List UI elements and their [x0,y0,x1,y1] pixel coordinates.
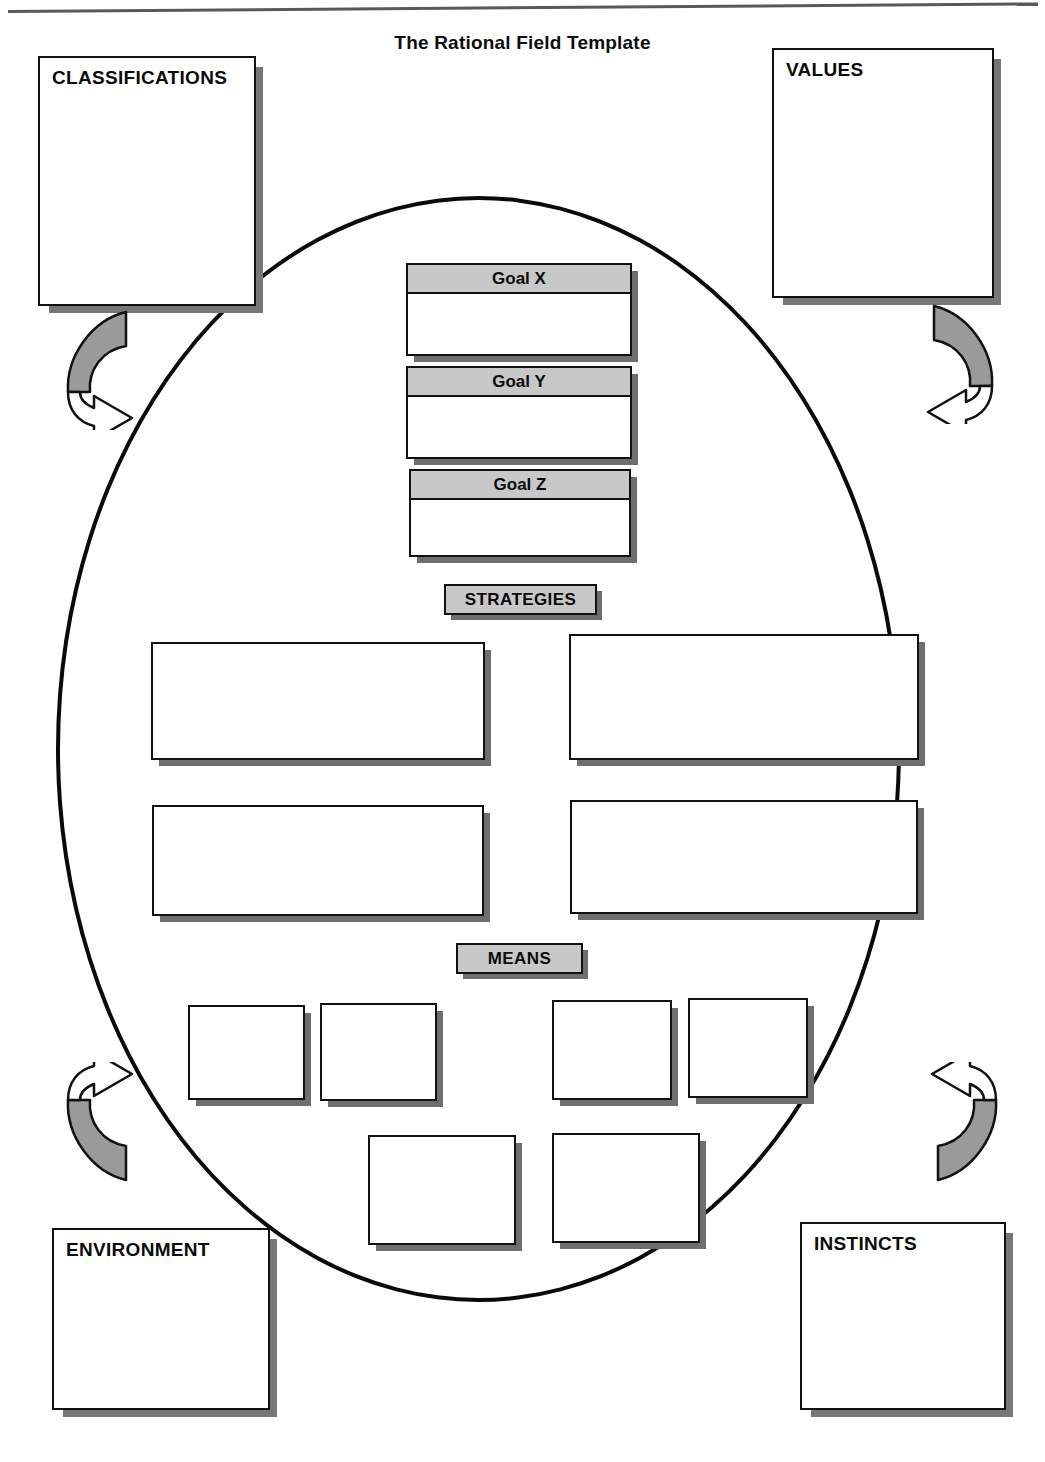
goal-card-z[interactable]: Goal Z [409,469,631,557]
means-box-3[interactable] [552,1000,672,1100]
corner-box-values-label: VALUES [786,59,863,81]
means-box-1[interactable] [188,1005,305,1100]
means-box-4[interactable] [688,998,808,1098]
environment-inflow-arrow [58,1062,168,1192]
means-box-2[interactable] [320,1003,437,1101]
means-label: MEANS [456,943,583,974]
diagram-page: The Rational Field Template CLASSIFICATI… [0,0,1045,1462]
corner-box-values[interactable]: VALUES [772,48,994,298]
goal-card-z-header: Goal Z [411,471,629,500]
strategies-label: STRATEGIES [444,584,597,615]
values-inflow-arrow [892,294,1002,424]
corner-box-instincts[interactable]: INSTINCTS [800,1222,1006,1410]
goal-card-y[interactable]: Goal Y [406,366,632,459]
corner-box-environment[interactable]: ENVIRONMENT [52,1228,270,1410]
strategy-box-2[interactable] [569,634,919,760]
goal-card-x-body[interactable] [408,294,630,354]
strategy-box-1[interactable] [151,642,485,760]
goal-card-y-body[interactable] [408,397,630,457]
page-top-rule [8,2,1038,13]
goal-card-x-header: Goal X [408,265,630,294]
page-bottom-artifact [170,1448,590,1462]
goal-card-y-header: Goal Y [408,368,630,397]
corner-box-classifications[interactable]: CLASSIFICATIONS [38,56,256,306]
goal-card-z-body[interactable] [411,500,629,555]
goal-card-x[interactable]: Goal X [406,263,632,356]
instincts-inflow-arrow [896,1062,1006,1192]
classifications-inflow-arrow [58,300,168,430]
corner-box-environment-label: ENVIRONMENT [66,1239,210,1261]
corner-box-classifications-label: CLASSIFICATIONS [52,67,227,89]
means-box-6[interactable] [552,1133,700,1243]
means-box-5[interactable] [368,1135,516,1245]
strategy-box-3[interactable] [152,805,484,916]
corner-box-instincts-label: INSTINCTS [814,1233,917,1255]
strategy-box-4[interactable] [570,800,918,914]
